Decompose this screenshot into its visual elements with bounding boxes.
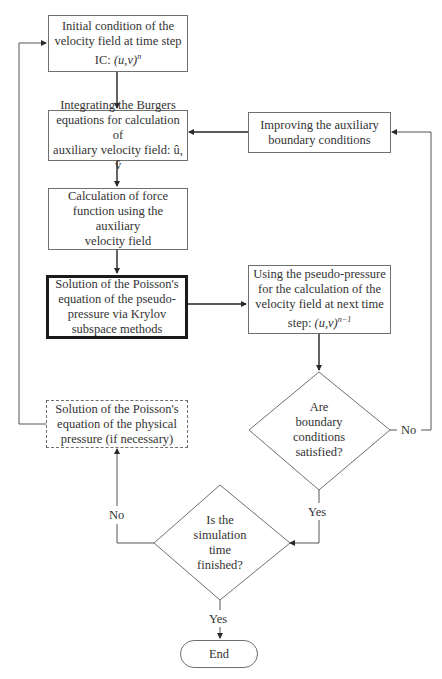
- nv-sup: n−1: [338, 315, 351, 324]
- burgers-box: Integrating the Burgers equations for ca…: [48, 110, 188, 161]
- flowchart-canvas: Initial condition of the velocity field …: [0, 0, 442, 679]
- next-velocity-box: Using the pseudo-pressure for the calcul…: [248, 265, 391, 334]
- force-line3: velocity field: [53, 234, 183, 249]
- bc-decision-text: Are boundary conditions satisfied?: [269, 400, 369, 460]
- poisson-pseudo-line2: equation of the pseudo-: [55, 292, 178, 307]
- bc-yes-label: Yes: [307, 505, 327, 519]
- time-decision-line1: Is the: [170, 513, 270, 528]
- bc-no-label: No: [400, 423, 417, 437]
- bc-decision-line2: boundary: [269, 415, 369, 430]
- burgers-line3: auxiliary velocity field: û, v̂: [53, 143, 183, 173]
- bc-decision-line4: satisfied?: [269, 445, 369, 460]
- time-decision-text: Is the simulation time finished?: [170, 513, 270, 573]
- poisson-physical-line1: Solution of the Poisson's: [55, 402, 178, 417]
- initial-condition-line2: velocity field at time step: [54, 34, 181, 49]
- burgers-line1: Integrating the Burgers: [53, 98, 183, 113]
- initial-condition-line3: IC: (u,v)n: [54, 49, 181, 68]
- next-velocity-line2: for the calculation of the: [253, 282, 386, 297]
- poisson-pseudo-box: Solution of the Poisson's equation of th…: [46, 275, 188, 339]
- poisson-pseudo-line4: subspace methods: [55, 322, 178, 337]
- bc-decision-line3: conditions: [269, 430, 369, 445]
- burgers-line2: equations for calculation of: [53, 113, 183, 143]
- poisson-pseudo-line1: Solution of the Poisson's: [55, 277, 178, 292]
- poisson-physical-line2: equation of the physical: [55, 417, 178, 432]
- time-decision-line2: simulation: [170, 528, 270, 543]
- poisson-pseudo-line3: pressure via Krylov: [55, 307, 178, 322]
- end-terminal: End: [180, 640, 258, 668]
- end-label: End: [209, 647, 229, 662]
- bc-decision-line1: Are: [269, 400, 369, 415]
- time-yes-label: Yes: [208, 612, 228, 626]
- poisson-physical-box: Solution of the Poisson's equation of th…: [46, 400, 188, 448]
- improve-bc-line1: Improving the auxiliary: [260, 118, 379, 133]
- ic-prefix: IC:: [95, 53, 114, 67]
- time-decision-line3: time: [170, 543, 270, 558]
- next-velocity-line1: Using the pseudo-pressure: [253, 267, 386, 282]
- force-line2: function using the auxiliary: [53, 204, 183, 234]
- initial-condition-box: Initial condition of the velocity field …: [48, 15, 188, 72]
- time-no-label: No: [108, 508, 125, 522]
- next-velocity-line4: step: (u,v)n−1: [253, 312, 386, 331]
- force-line1: Calculation of force: [53, 189, 183, 204]
- ic-sup: n: [137, 52, 141, 61]
- nv-prefix: step:: [288, 317, 315, 331]
- initial-condition-line1: Initial condition of the: [54, 19, 181, 34]
- ic-uv-math: (u,v): [114, 53, 137, 67]
- time-decision-line4: finished?: [170, 558, 270, 573]
- improve-bc-box: Improving the auxiliary boundary conditi…: [248, 112, 391, 153]
- force-function-box: Calculation of force function using the …: [48, 188, 188, 250]
- nv-uv-math: (u,v): [315, 317, 338, 331]
- poisson-physical-line3: pressure (if necessary): [55, 432, 178, 447]
- next-velocity-line3: velocity field at next time: [253, 297, 386, 312]
- improve-bc-line2: boundary conditions: [260, 133, 379, 148]
